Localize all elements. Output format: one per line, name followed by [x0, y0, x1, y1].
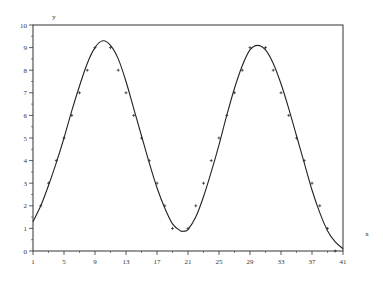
- y-axis: 012345678910: [20, 22, 33, 256]
- x-tick-label: 17: [154, 258, 162, 266]
- x-tick-label: 13: [123, 258, 131, 266]
- data-point: [86, 69, 89, 72]
- fitted-curve: [33, 41, 343, 249]
- data-point: [63, 137, 66, 140]
- x-tick-label: 33: [278, 258, 286, 266]
- data-point: [272, 69, 275, 72]
- x-tick-label: 41: [340, 258, 348, 266]
- y-tick-label: 3: [24, 180, 28, 188]
- y-tick-label: 9: [24, 44, 28, 52]
- data-point: [210, 159, 213, 162]
- data-point: [78, 91, 81, 94]
- y-tick-label: 5: [24, 135, 28, 143]
- data-point: [225, 114, 228, 117]
- x-tick-label: 25: [216, 258, 224, 266]
- y-tick-label: 7: [24, 89, 28, 97]
- data-point: [125, 91, 128, 94]
- x-tick-label: 9: [93, 258, 97, 266]
- data-points: [39, 46, 337, 252]
- data-point: [318, 204, 321, 207]
- y-tick-label: 8: [24, 67, 28, 75]
- y-tick-label: 1: [24, 225, 28, 233]
- data-point: [171, 227, 174, 230]
- x-tick-label: 21: [185, 258, 193, 266]
- data-point: [132, 114, 135, 117]
- y-tick-label: 6: [24, 112, 28, 120]
- y-tick-label: 0: [24, 248, 28, 256]
- y-axis-label: y: [52, 13, 56, 21]
- x-tick-label: 5: [62, 258, 66, 266]
- data-point: [287, 114, 290, 117]
- y-tick-label: 2: [24, 202, 28, 210]
- x-axis-label: x: [365, 230, 369, 238]
- y-tick-label: 10: [20, 22, 28, 30]
- data-point: [202, 182, 205, 185]
- x-tick-label: 29: [247, 258, 255, 266]
- data-point: [280, 91, 283, 94]
- y-tick-label: 4: [24, 157, 28, 165]
- x-axis: 1591317212529333741: [31, 251, 347, 266]
- data-point: [117, 69, 120, 72]
- x-tick-label: 37: [309, 258, 317, 266]
- chart: 012345678910 1591317212529333741 y x: [0, 0, 383, 281]
- data-point: [311, 182, 314, 185]
- data-point: [194, 204, 197, 207]
- x-tick-label: 1: [31, 258, 35, 266]
- data-point: [334, 250, 337, 253]
